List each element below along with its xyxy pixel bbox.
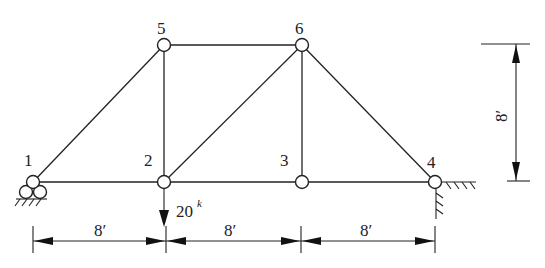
wall-support-icon	[435, 182, 476, 219]
joint-label-5: 5	[157, 19, 166, 38]
joint-3	[296, 176, 309, 189]
vertical-dimension: 8′	[481, 44, 530, 181]
joint-label-2: 2	[144, 151, 153, 170]
joint-label-4: 4	[427, 153, 436, 172]
dim-label-height: 8′	[492, 110, 511, 122]
load-unit: k	[197, 197, 203, 209]
joint-5	[158, 39, 171, 52]
joint-2	[158, 176, 171, 189]
arrow-right-icon	[146, 237, 165, 245]
dim-label-2-3: 8′	[224, 221, 236, 240]
point-load: 20 k	[159, 189, 203, 227]
load-magnitude: 20	[176, 202, 193, 221]
arrow-right-icon	[415, 237, 434, 245]
member-4-6	[302, 45, 435, 182]
horizontal-dimensions: 8′ 8′ 8′	[33, 221, 435, 253]
dim-label-3-4: 8′	[360, 221, 372, 240]
joint-label-3: 3	[280, 151, 289, 170]
arrow-right-icon	[281, 237, 300, 245]
arrow-left-icon	[34, 237, 53, 245]
arrow-left-icon	[167, 237, 186, 245]
dim-label-1-2: 8′	[94, 221, 106, 240]
truss-diagram: 1 2 3 4 5 6 20 k 8′ 8′ 8′	[0, 0, 545, 268]
arrow-up-icon	[512, 45, 520, 63]
arrow-down-icon	[159, 210, 169, 227]
truss-members	[33, 45, 435, 182]
joint-6	[296, 39, 309, 52]
arrow-left-icon	[302, 237, 321, 245]
arrow-down-icon	[512, 162, 520, 180]
joint-label-6: 6	[295, 19, 304, 38]
joint-4	[429, 176, 442, 189]
joint-1	[27, 176, 40, 189]
joint-label-1: 1	[24, 151, 33, 170]
joint-labels: 1 2 3 4 5 6	[24, 19, 436, 172]
truss-joints	[27, 39, 442, 189]
